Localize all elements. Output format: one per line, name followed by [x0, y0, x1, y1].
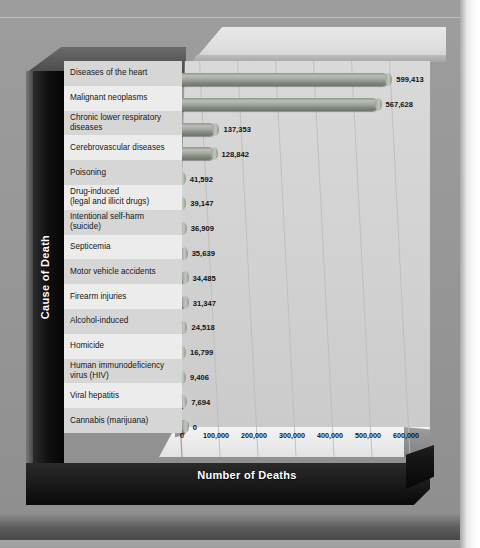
bar-value-label-7: 36,909	[191, 224, 214, 233]
category-label-text: Motor vehicle accidents	[70, 267, 156, 277]
bar-chart: Cause of Death 599,413567,628137,353128,…	[14, 27, 446, 514]
category-label-text: Drug-induced (legal and illicit drugs)	[70, 187, 149, 207]
bar-end-cap	[182, 271, 189, 284]
category-label-7: Intentional self-harm (suicide)	[64, 210, 182, 235]
bar-2	[163, 98, 379, 111]
category-label-text: Septicemia	[70, 242, 111, 252]
category-label-8: Septicemia	[64, 235, 182, 260]
category-label-5: Poisoning	[64, 160, 182, 185]
category-label-text: Viral hepatitis	[70, 391, 119, 401]
y-axis-title: Cause of Death	[28, 187, 62, 367]
category-label-text: Alcohol-induced	[70, 316, 128, 326]
category-label-13: Human immunodeficiency virus (HIV)	[64, 359, 182, 384]
bar-value-label-11: 24,518	[191, 323, 214, 332]
category-label-3: Chronic lower respiratory diseases	[64, 111, 182, 136]
category-label-15: Cannabis (marijuana)	[64, 408, 182, 433]
category-label-text: Diseases of the heart	[70, 68, 147, 78]
category-label-9: Motor vehicle accidents	[64, 259, 182, 284]
bar-value-label-6: 39,147	[190, 199, 213, 208]
bar-end-cap	[375, 98, 382, 111]
x-axis-tick-labels: 0100,000200,000300,000400,000500,000600,…	[64, 431, 430, 445]
category-label-14: Viral hepatitis	[64, 383, 182, 408]
page-hairline	[0, 17, 480, 18]
bar-value-label-1: 599,413	[396, 75, 423, 84]
bar-value-label-12: 16,799	[190, 348, 213, 357]
x-tick-6: 500,000	[355, 431, 381, 440]
x-tick-5: 400,000	[317, 431, 343, 440]
bar-value-label-9: 34,485	[193, 274, 216, 283]
x-tick-7: 600,000	[393, 431, 419, 440]
x-tick-2: 100,000	[203, 431, 229, 440]
x-tick-4: 300,000	[279, 431, 305, 440]
bar-value-label-3: 137,353	[223, 125, 250, 134]
bar-end-cap	[211, 147, 218, 160]
bar-end-cap	[385, 73, 392, 86]
bar-value-label-13: 9,406	[190, 373, 209, 382]
bar-body	[162, 73, 390, 86]
bar-value-label-14: 7,694	[191, 398, 210, 407]
category-label-11: Alcohol-induced	[64, 309, 182, 334]
category-label-text: Homicide	[70, 341, 104, 351]
bar-value-label-10: 31,347	[193, 299, 216, 308]
category-label-text: Human immunodeficiency virus (HIV)	[70, 361, 164, 381]
category-label-text: Firearm injuries	[70, 292, 126, 302]
bar-body	[163, 98, 379, 111]
category-label-6: Drug-induced (legal and illicit drugs)	[64, 185, 182, 210]
bar-value-label-5: 41,592	[190, 175, 213, 184]
category-label-text: Chronic lower respiratory diseases	[70, 113, 161, 133]
page-right-margin	[460, 0, 480, 548]
category-label-12: Homicide	[64, 334, 182, 359]
category-label-2: Malignant neoplasms	[64, 86, 182, 111]
category-label-text: Poisoning	[70, 168, 106, 178]
bar-1	[162, 73, 390, 86]
category-label-text: Cannabis (marijuana)	[70, 416, 148, 426]
chart-top-slab	[159, 27, 446, 61]
category-label-text: Malignant neoplasms	[70, 93, 147, 103]
bar-end-cap	[182, 296, 189, 309]
x-axis-title: Number of Deaths	[64, 469, 430, 481]
x-tick-1: 0	[180, 431, 184, 440]
page-bottom-edge	[0, 540, 480, 548]
y-axis-title-text: Cause of Death	[39, 235, 51, 319]
category-label-4: Cerebrovascular diseases	[64, 135, 182, 160]
bar-value-label-8: 35,639	[192, 249, 215, 258]
category-label-column: Diseases of the heartMalignant neoplasms…	[64, 61, 182, 433]
bar-value-label-4: 128,842	[222, 150, 249, 159]
x-tick-3: 200,000	[241, 431, 267, 440]
bar-value-label-2: 567,628	[386, 100, 413, 109]
category-label-1: Diseases of the heart	[64, 61, 182, 86]
bar-end-cap	[212, 123, 219, 136]
category-label-text: Cerebrovascular diseases	[70, 143, 165, 153]
category-label-text: Intentional self-harm (suicide)	[70, 212, 144, 232]
category-label-10: Firearm injuries	[64, 284, 182, 309]
